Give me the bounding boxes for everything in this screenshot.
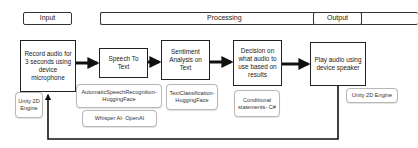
tool-asr-huggingface: AutomaticSpeechRecognition- HuggingFace (76, 84, 162, 108)
tool-asr-huggingface-label: AutomaticSpeechRecognition- HuggingFace (78, 89, 160, 103)
tool-unity-left-label: Unity 2D Engine (17, 98, 41, 112)
tool-textclassification-huggingface: TextClassification- HuggingFace (166, 84, 218, 110)
step-sentiment-analysis: Sentiment Analysis on Text (161, 40, 210, 80)
tool-unity-right: Unity 2D Engine (346, 88, 398, 103)
header-input: Input (23, 12, 72, 25)
step-record-audio: Record audio for 3 seconds using device … (20, 40, 76, 92)
step-record-audio-label: Record audio for 3 seconds using device … (23, 50, 73, 82)
header-output-label: Output (327, 14, 348, 23)
step-play-audio: Play audio using device speaker (310, 42, 366, 86)
tool-conditional-statements-label: Conditional statements- C# (236, 97, 278, 111)
tool-conditional-statements: Conditional statements- C# (234, 90, 280, 117)
step-decision-label: Decision on what audio to use based on r… (236, 47, 279, 79)
header-processing: Processing (100, 12, 418, 25)
step-decision: Decision on what audio to use based on r… (233, 40, 282, 86)
header-processing-label: Processing (207, 14, 242, 23)
tool-unity-left: Unity 2D Engine (15, 92, 43, 118)
step-speech-to-text: Speech To Text (99, 48, 148, 78)
header-input-label: Input (40, 14, 56, 23)
tool-whisper-openai-label: Whisper AI- OpenAI (95, 115, 144, 122)
tool-whisper-openai: Whisper AI- OpenAI (82, 110, 157, 127)
step-speech-to-text-label: Speech To Text (102, 55, 145, 71)
header-output: Output (313, 12, 362, 25)
step-play-audio-label: Play audio using device speaker (313, 56, 363, 72)
step-sentiment-analysis-label: Sentiment Analysis on Text (164, 48, 207, 72)
tool-unity-right-label: Unity 2D Engine (352, 92, 392, 99)
tool-textclassification-label: TextClassification- HuggingFace (168, 90, 216, 104)
